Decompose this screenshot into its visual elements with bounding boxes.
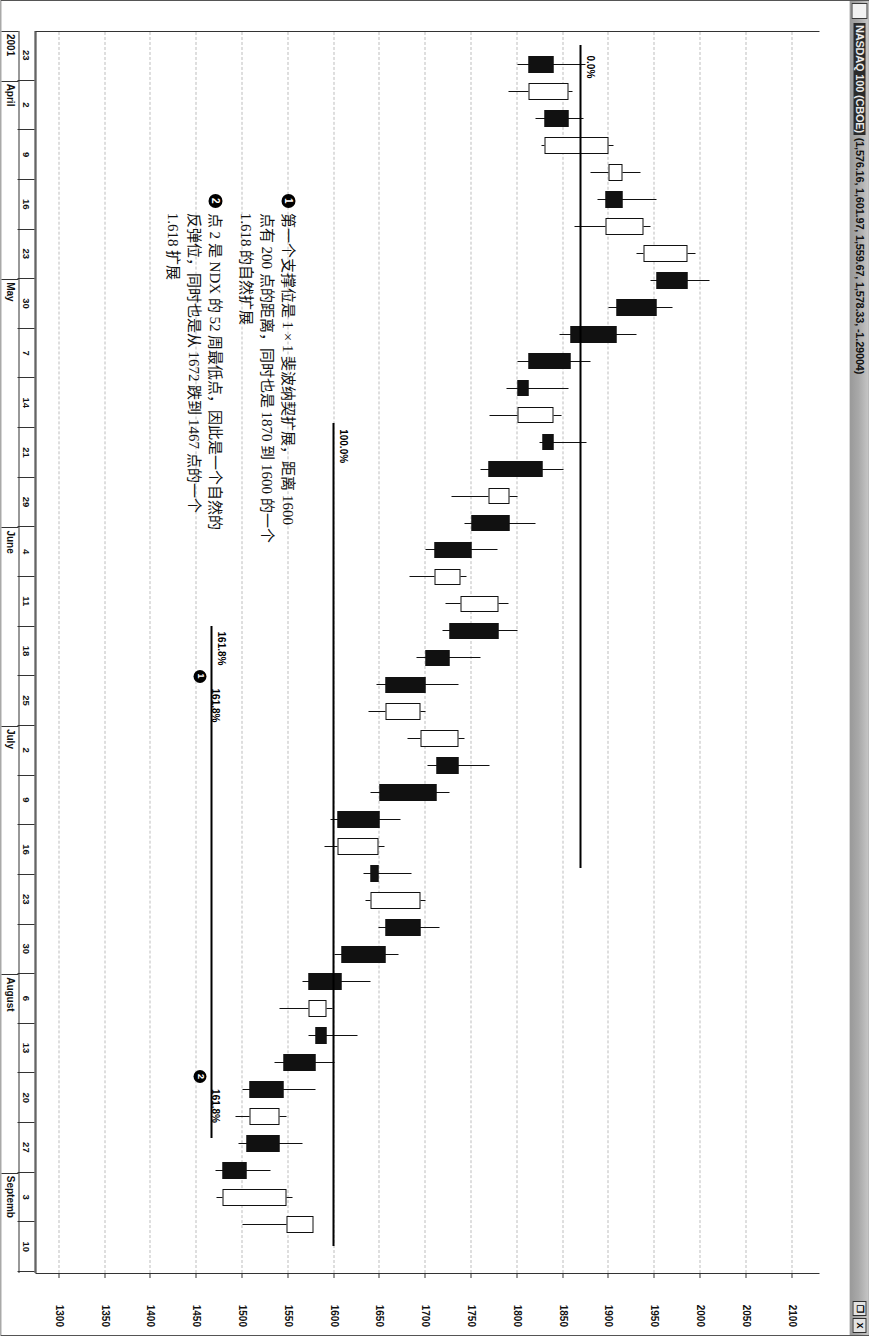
fib-marker-1[interactable]: 1 bbox=[193, 670, 206, 683]
candlestick[interactable] bbox=[368, 703, 425, 720]
candle-body-down bbox=[337, 811, 379, 828]
grid-line bbox=[653, 32, 654, 1273]
date-axis-month: April bbox=[1, 81, 18, 289]
candle-body-down bbox=[488, 461, 543, 478]
candlestick[interactable] bbox=[274, 1054, 334, 1071]
grid-line bbox=[58, 32, 59, 1273]
candlestick[interactable] bbox=[409, 569, 467, 586]
candlestick[interactable] bbox=[480, 461, 562, 478]
candlestick[interactable] bbox=[425, 542, 496, 559]
candlestick[interactable] bbox=[597, 191, 656, 208]
system-menu-icon[interactable] bbox=[851, 3, 867, 19]
chart-plot-area: 0.0%100.0%161.8%1161.8%2161.8%1第一个支撑位是 1… bbox=[1, 1, 849, 1335]
candle-body-down bbox=[528, 56, 554, 73]
candlestick[interactable] bbox=[370, 784, 449, 801]
candlestick[interactable] bbox=[541, 137, 613, 154]
date-axis-days: 2329162330714212941118252916233061320273… bbox=[18, 31, 35, 1273]
candlestick[interactable] bbox=[427, 757, 489, 774]
date-axis[interactable]: 2329162330714212941118252916233061320273… bbox=[1, 31, 35, 1273]
candlestick[interactable] bbox=[365, 892, 425, 909]
candlestick[interactable] bbox=[574, 218, 650, 235]
candlestick[interactable] bbox=[378, 919, 439, 936]
candle-body-down bbox=[616, 299, 656, 316]
candlestick[interactable] bbox=[216, 1189, 292, 1206]
fib-extension-line[interactable] bbox=[579, 45, 581, 868]
price-tick-label: 1700 bbox=[420, 1305, 431, 1327]
candlestick[interactable] bbox=[636, 245, 696, 262]
price-tick bbox=[699, 1273, 700, 1278]
candle-body-down bbox=[436, 757, 458, 774]
price-tick bbox=[470, 1273, 471, 1278]
price-tick-label: 1850 bbox=[557, 1305, 568, 1327]
date-axis-month: Septemb bbox=[1, 1173, 18, 1336]
candlestick[interactable] bbox=[334, 946, 398, 963]
candlestick[interactable] bbox=[242, 1081, 315, 1098]
price-tick bbox=[195, 1273, 196, 1278]
candlestick[interactable] bbox=[215, 1162, 270, 1179]
price-tick-label: 1900 bbox=[603, 1305, 614, 1327]
candle-body-down bbox=[222, 1162, 246, 1179]
candlestick[interactable] bbox=[445, 596, 507, 613]
candlestick[interactable] bbox=[376, 677, 458, 694]
date-axis-tick: 16 bbox=[17, 180, 34, 230]
candlestick[interactable] bbox=[535, 110, 583, 127]
candlestick[interactable] bbox=[508, 83, 572, 100]
grid-line bbox=[699, 32, 700, 1273]
candlestick[interactable] bbox=[517, 56, 586, 73]
fib-marker-2[interactable]: 2 bbox=[193, 1070, 206, 1083]
candle-body-down bbox=[385, 677, 425, 694]
price-axis[interactable]: 2100205020001950190018501800175017001650… bbox=[35, 1273, 819, 1335]
price-tick-label: 1300 bbox=[53, 1305, 64, 1327]
candlestick[interactable] bbox=[242, 1216, 297, 1233]
date-axis-tick: 3 bbox=[17, 1173, 34, 1223]
date-axis-tick: 30 bbox=[17, 925, 34, 975]
candlestick[interactable] bbox=[363, 865, 412, 882]
candle-body-down bbox=[528, 353, 570, 370]
date-axis-tick: 10 bbox=[17, 1222, 34, 1272]
candlestick[interactable] bbox=[330, 811, 400, 828]
candlestick[interactable] bbox=[559, 326, 636, 343]
candle-body-up bbox=[308, 1000, 326, 1017]
candle-body-up bbox=[385, 703, 420, 720]
candlestick[interactable] bbox=[303, 973, 371, 990]
candlestick[interactable] bbox=[416, 650, 480, 667]
annotation-block: 1第一个支撑位是 1 × 1 斐波纳契扩展，距离 1600 点有 200 点的距… bbox=[151, 194, 297, 554]
candlestick[interactable] bbox=[608, 299, 672, 316]
candlestick[interactable] bbox=[464, 515, 535, 532]
candlestick[interactable] bbox=[279, 1000, 332, 1017]
candlestick[interactable] bbox=[506, 380, 568, 397]
candlestick[interactable] bbox=[451, 488, 517, 505]
close-button[interactable]: X bbox=[852, 1318, 866, 1333]
candle-body-down bbox=[425, 650, 449, 667]
date-axis-tick: 9 bbox=[17, 776, 34, 826]
candlestick[interactable] bbox=[238, 1135, 301, 1152]
date-axis-month: August bbox=[1, 974, 18, 1182]
candlestick[interactable] bbox=[590, 164, 640, 181]
price-tick bbox=[333, 1273, 334, 1278]
price-tick-label: 1450 bbox=[191, 1305, 202, 1327]
chart-grid[interactable]: 0.0%100.0%161.8%1161.8%2161.8%1第一个支撑位是 1… bbox=[35, 31, 819, 1273]
restore-button[interactable]: ❐ bbox=[852, 1301, 866, 1316]
candle-body-down bbox=[656, 272, 687, 289]
candlestick[interactable] bbox=[407, 730, 464, 747]
candle-body-down bbox=[370, 865, 377, 882]
candle-body-down bbox=[341, 946, 385, 963]
date-axis-tick: 13 bbox=[17, 1024, 34, 1074]
price-tick-label: 1950 bbox=[649, 1305, 660, 1327]
window-titlebar: NASDAQ 100 (CBOE) (1,576.16, 1,601.97, 1… bbox=[849, 1, 868, 1335]
candle-body-down bbox=[249, 1081, 283, 1098]
date-axis-tick: 20 bbox=[17, 1073, 34, 1123]
date-axis-tick: 6 bbox=[17, 974, 34, 1024]
grid-line bbox=[378, 32, 379, 1273]
candlestick[interactable] bbox=[442, 623, 517, 640]
window-title-quote: (1,576.16, 1,601.97, 1,559.67, 1,578.33,… bbox=[853, 138, 865, 374]
date-axis-tick: 23 bbox=[17, 875, 34, 925]
grid-line bbox=[791, 32, 792, 1273]
scanned-page: NASDAQ 100 (CBOE) (1,576.16, 1,601.97, 1… bbox=[0, 0, 869, 1336]
price-tick-label: 2050 bbox=[740, 1305, 751, 1327]
candlestick[interactable] bbox=[235, 1108, 286, 1125]
candle-body-up bbox=[286, 1216, 313, 1233]
candlestick[interactable] bbox=[489, 407, 560, 424]
candlestick[interactable] bbox=[650, 272, 710, 289]
fib-extension-line[interactable] bbox=[332, 423, 334, 1246]
